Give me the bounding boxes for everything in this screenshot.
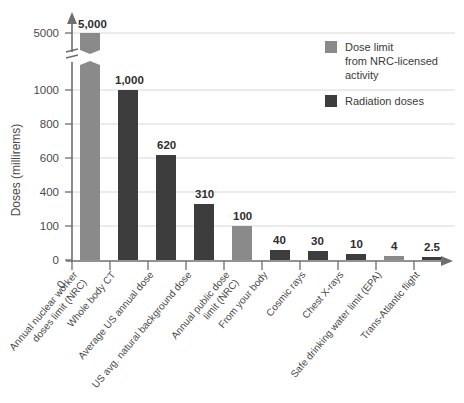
bar-average-us-annual-dose[interactable] bbox=[156, 155, 176, 260]
y-tick-label-800: 800 bbox=[40, 118, 59, 130]
y-tick-label-100: 100 bbox=[40, 220, 59, 232]
bar-chest-x-rays[interactable] bbox=[346, 254, 366, 260]
x-axis-arrow-icon bbox=[441, 256, 453, 266]
y-axis-title: Doses (millirems) bbox=[9, 124, 23, 217]
value-label-6: 30 bbox=[311, 235, 324, 247]
x-label-2[interactable]: Average US annual dose bbox=[76, 269, 156, 361]
chart-svg: 5,000 1,000 620 310 100 40 30 10 4 2.5 bbox=[0, 0, 464, 403]
category-labels: Annual nuclear worker doses limit (NRC) … bbox=[7, 269, 422, 390]
value-label-8: 4 bbox=[391, 240, 398, 252]
y-tick-label-0: 0 bbox=[53, 254, 59, 266]
bar-whole-body-ct[interactable] bbox=[118, 90, 138, 260]
legend-swatch-radiation-doses bbox=[325, 95, 337, 107]
y-tick-label-600: 600 bbox=[40, 152, 59, 164]
bar-annual-public-dose-limit-nrc[interactable] bbox=[232, 226, 252, 260]
value-label-9: 2.5 bbox=[424, 241, 441, 253]
value-label-3: 310 bbox=[195, 188, 214, 200]
legend: Dose limit from NRC-licensed activity Ra… bbox=[325, 41, 438, 107]
legend-entry-dose-limit[interactable]: Dose limit from NRC-licensed activity bbox=[325, 41, 438, 81]
value-label-0: 5,000 bbox=[78, 18, 107, 30]
radiation-dose-bar-chart: 5,000 1,000 620 310 100 40 30 10 4 2.5 bbox=[0, 0, 464, 403]
y-axis-arrow-icon bbox=[67, 12, 77, 24]
legend-label-radiation-doses: Radiation doses bbox=[345, 95, 424, 107]
x-label-2-line-0: Average US annual dose bbox=[76, 269, 156, 361]
y-tick-label-400: 400 bbox=[40, 186, 59, 198]
bar-us-avg-natural-background-dose[interactable] bbox=[194, 204, 214, 260]
value-label-4: 100 bbox=[233, 210, 252, 222]
bar-trans-atlantic-flight[interactable] bbox=[422, 257, 442, 260]
value-label-7: 10 bbox=[350, 238, 363, 250]
y-tick-label-1000: 1000 bbox=[33, 84, 59, 96]
legend-label-dose-limit-line-1: from NRC-licensed bbox=[345, 55, 438, 67]
bar-safe-drinking-water-limit-epa[interactable] bbox=[384, 256, 404, 260]
bar-cosmic-rays[interactable] bbox=[308, 251, 328, 260]
y-tick-label-5000: 5000 bbox=[33, 27, 59, 39]
y-axis: 5000 1000 800 600 400 100 0 Doses (milli… bbox=[9, 12, 78, 266]
x-label-0-line-0: Annual nuclear worker bbox=[7, 269, 80, 353]
bar-from-your-body[interactable] bbox=[270, 250, 290, 260]
legend-label-dose-limit-line-2: activity bbox=[345, 69, 379, 81]
legend-label-dose-limit-line-0: Dose limit bbox=[345, 41, 393, 53]
value-label-1: 1,000 bbox=[115, 74, 144, 86]
value-label-5: 40 bbox=[273, 234, 286, 246]
legend-entry-radiation-doses[interactable]: Radiation doses bbox=[325, 95, 424, 107]
legend-swatch-dose-limit bbox=[325, 41, 337, 53]
value-label-2: 620 bbox=[157, 139, 176, 151]
y-axis-break-mark-lower bbox=[66, 55, 78, 58]
bar-annual-nuclear-worker-doses-limit-nrc[interactable] bbox=[80, 33, 100, 260]
